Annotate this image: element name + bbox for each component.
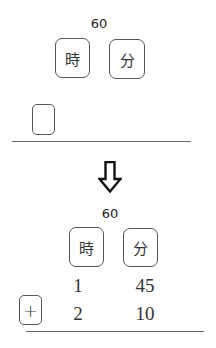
down-arrow-icon bbox=[98, 161, 122, 193]
operator-box-plus[interactable]: + bbox=[19, 295, 42, 325]
row1-hours: 1 bbox=[66, 276, 90, 295]
minutes-unit-box-top: 分 bbox=[109, 39, 145, 79]
hours-unit-box-bottom: 時 bbox=[69, 227, 104, 267]
row1-minutes: 45 bbox=[130, 276, 160, 295]
minutes-unit-box-bottom: 分 bbox=[123, 228, 158, 267]
sum-line-top bbox=[12, 141, 191, 142]
carry-label-top: 60 bbox=[86, 16, 112, 31]
carry-label-bottom: 60 bbox=[97, 206, 123, 221]
operator-box-empty[interactable] bbox=[32, 104, 55, 135]
hours-unit-box-top: 時 bbox=[55, 38, 90, 78]
row2-hours: 2 bbox=[66, 304, 90, 323]
row2-minutes: 10 bbox=[130, 304, 160, 323]
sum-line-bottom bbox=[26, 331, 204, 332]
